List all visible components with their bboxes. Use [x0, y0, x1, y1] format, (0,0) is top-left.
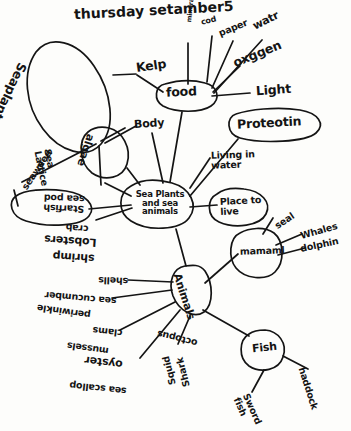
- label-water: watr: [251, 10, 281, 32]
- link-animals-clams: [120, 302, 175, 330]
- label-shells: shells: [98, 275, 128, 286]
- mind-map-canvas: thursday setamber5 Seaplants Kelp minera…: [0, 0, 351, 431]
- link-vert-center: [99, 146, 101, 185]
- link-livinginwater-center: [190, 158, 210, 188]
- label-sea-lattice: Sea Lattice: [33, 148, 59, 187]
- stroke-left-edge: [14, 190, 18, 206]
- link-center-animals: [176, 229, 186, 266]
- link-body-center: [152, 133, 163, 183]
- link-kelp-food: [137, 75, 163, 92]
- link-mammal-whales: [276, 234, 302, 245]
- node-mammal-label: mamaml: [240, 245, 285, 256]
- link-animals-mammal: [205, 254, 238, 283]
- link-mammal-seal: [263, 218, 273, 234]
- label-living-in-water: Living in water: [211, 149, 255, 170]
- node-seaplants-label: Seaplants: [0, 61, 28, 128]
- label-cod: cod: [200, 15, 217, 27]
- node-animals-label: Animals: [171, 272, 196, 321]
- label-shrimp: shrimp: [52, 250, 94, 264]
- node-food-label: food: [166, 85, 197, 99]
- link-kelp-h: [113, 74, 136, 75]
- label-sword-fish: Sword fish: [233, 392, 264, 430]
- link-paper-food: [212, 41, 233, 88]
- label-oxygen: oxggen: [231, 39, 283, 70]
- link-placetolive-center: [190, 205, 217, 207]
- label-periwinkle: periwinkle: [37, 303, 92, 320]
- link-fish-swordfish: [252, 370, 264, 392]
- label-crab: crab: [65, 222, 88, 234]
- label-sea-scallop: sea scallop: [69, 380, 127, 396]
- label-seal: seal: [273, 211, 296, 231]
- label-sea-cucumber: sea cucumber: [44, 290, 117, 306]
- node-algae-label: algae: [75, 133, 96, 168]
- link-animals-shells: [128, 280, 173, 282]
- label-light: Light: [256, 83, 292, 98]
- link-animals-fish: [203, 310, 249, 336]
- label-kelp: Kelp: [135, 58, 167, 75]
- node-place-to-live-label: Place to live: [220, 195, 262, 216]
- link-cod-food: [207, 36, 212, 82]
- label-haddock: haddock: [297, 366, 320, 411]
- link-kelp-seaplants: [101, 128, 125, 141]
- node-fish-label: Fish: [251, 341, 277, 355]
- label-clams: clams: [92, 325, 123, 338]
- link-sealattice-center: [105, 183, 131, 196]
- label-oyster: oyster: [84, 354, 123, 370]
- link-animals-seacucumber: [112, 290, 172, 298]
- link-kelp-line: [105, 126, 136, 143]
- center-node-label: Sea Plants and sea animals: [133, 190, 187, 216]
- label-octopus: octopus: [156, 329, 198, 348]
- link-crab-center: [96, 208, 132, 220]
- link-food-light: [212, 93, 250, 96]
- link-starfish-center: [89, 205, 131, 209]
- label-lobsters: Lobsters: [44, 233, 97, 248]
- label-body: Body: [134, 117, 165, 130]
- link-food-center: [170, 112, 182, 182]
- link-algae-center: [127, 168, 140, 185]
- oval-seaplants: [27, 42, 110, 152]
- label-paper: paper: [217, 18, 249, 38]
- node-starfish-label: Starfish sea pod: [43, 194, 84, 214]
- node-proteotin-label: Proteotin: [237, 115, 302, 131]
